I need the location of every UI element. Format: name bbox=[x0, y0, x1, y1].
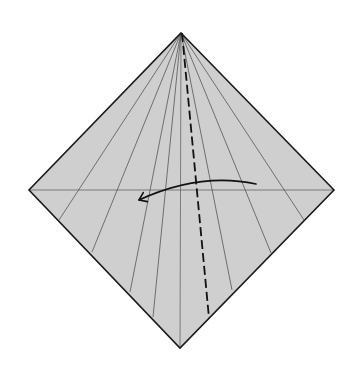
paper-square bbox=[29, 33, 334, 348]
origami-fold-figure bbox=[0, 0, 352, 375]
origami-diagram bbox=[0, 0, 352, 375]
